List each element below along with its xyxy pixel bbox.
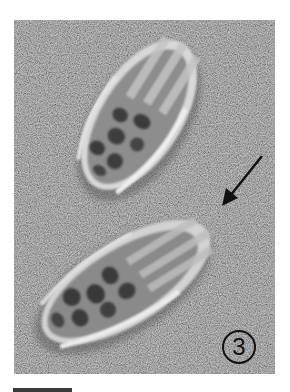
micrograph-panel	[14, 20, 275, 374]
panel-label: 3	[222, 330, 256, 364]
scale-bar	[13, 388, 72, 392]
micrograph-image	[14, 20, 275, 374]
